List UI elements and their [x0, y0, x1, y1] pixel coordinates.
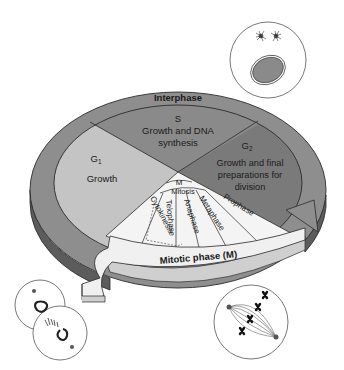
s-phase-desc-2: synthesis — [158, 137, 198, 148]
interphase-cell-illustration — [230, 22, 306, 98]
metaphase-cell-illustration — [214, 285, 288, 359]
g2-phase-desc-3: division — [235, 182, 266, 192]
dividing-cells-illustration — [15, 280, 87, 360]
interphase-label: Interphase — [154, 92, 202, 103]
s-phase-desc-1: Growth and DNA — [142, 125, 214, 136]
m-center-label: M — [176, 178, 183, 187]
mitosis-label: Mitosis — [171, 187, 195, 196]
s-phase-name: S — [175, 113, 181, 124]
g2-phase-desc-1: Growth and final — [217, 158, 284, 168]
g2-phase-desc-2: preparations for — [218, 170, 282, 180]
g1-phase-desc: Growth — [87, 173, 118, 184]
cell-cycle-diagram: Interphase S Growth and DNA synthesis G1… — [0, 0, 344, 370]
